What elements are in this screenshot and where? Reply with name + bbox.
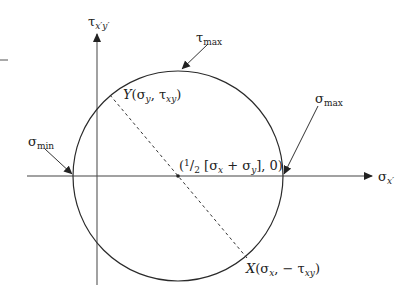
mohrs-circle-diagram: τx′y′ σx′ τmax σmax σmin Y(σy, τxy) (1/2… (0, 0, 410, 300)
sigma-min-pointer (45, 149, 72, 174)
center-label: (1/2 [σx + σy], 0) (179, 158, 283, 175)
sigma-axis-label: σx′ (378, 169, 394, 186)
tau-max-pointer (182, 44, 208, 69)
sigma-max-pointer (284, 106, 318, 174)
sigma-max-label: σmax (315, 91, 343, 108)
point-y-label: Y(σy, τxy) (123, 87, 181, 104)
center-point (176, 174, 180, 178)
sigma-min-label: σmin (28, 134, 54, 151)
tau-max-label: τmax (196, 30, 222, 47)
tau-axis-label: τx′y′ (88, 14, 109, 31)
point-x-label: X(σx, − τxy) (245, 261, 320, 278)
